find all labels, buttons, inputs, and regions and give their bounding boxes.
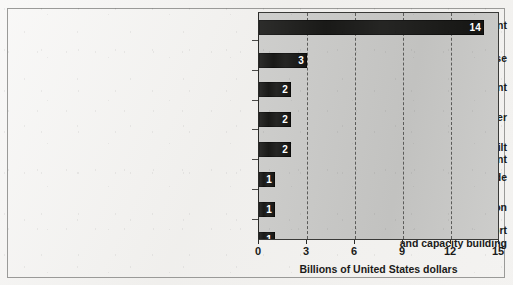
x-axis-label-3: 3 (291, 245, 321, 257)
bar-value-industries: 1 (266, 172, 272, 187)
bar-industries[interactable]: 1 (259, 172, 275, 187)
gridline-9 (403, 13, 404, 239)
bar-policy[interactable]: 1 (259, 232, 275, 240)
x-axis-label-9: 9 (387, 245, 417, 257)
bar-value-coastal-protection: 1 (266, 202, 272, 217)
chart-figure: Water and wastewater management Agricult… (0, 0, 513, 285)
x-axis-tick-12 (450, 240, 451, 244)
bar-coastal-protection[interactable]: 1 (259, 202, 275, 217)
x-axis-tick-9 (402, 240, 403, 244)
x-axis-tick-0 (258, 240, 259, 244)
plot-area: 14 3 2 2 2 1 1 1 (258, 12, 499, 240)
bar-value-agriculture: 3 (298, 53, 304, 68)
bar-value-water: 14 (469, 20, 481, 35)
x-axis-tick-3 (306, 240, 307, 244)
bar-value-other: 2 (282, 112, 288, 127)
x-axis-label-15: 15 (483, 245, 513, 257)
bar-agriculture[interactable]: 3 (259, 53, 307, 68)
x-axis-label-0: 0 (243, 245, 273, 257)
x-axis-tick-6 (354, 240, 355, 244)
bar-value-disaster-risk: 2 (282, 82, 288, 97)
bar-value-policy: 1 (266, 232, 272, 240)
bar-value-infrastructure: 2 (282, 142, 288, 157)
bar-sheen (259, 20, 484, 35)
x-axis-title: Billions of United States dollars (258, 263, 499, 275)
gridline-6 (355, 13, 356, 239)
x-axis-tick-15 (498, 240, 499, 244)
gridline-3 (307, 13, 308, 239)
bar-other[interactable]: 2 (259, 112, 291, 127)
plot-texture (259, 13, 498, 239)
bar-disaster-risk[interactable]: 2 (259, 82, 291, 97)
gridline-12 (451, 13, 452, 239)
x-axis-label-6: 6 (339, 245, 369, 257)
bar-infrastructure[interactable]: 2 (259, 142, 291, 157)
bar-water[interactable]: 14 (259, 20, 484, 35)
x-axis-label-12: 12 (435, 245, 465, 257)
